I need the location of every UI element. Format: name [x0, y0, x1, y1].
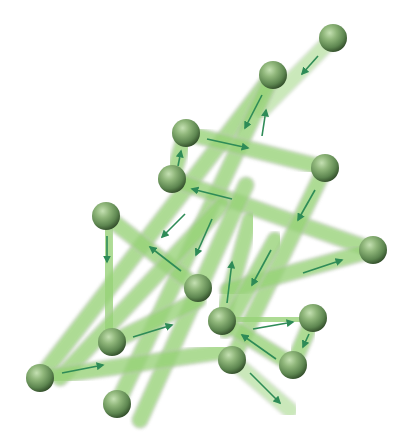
node-ball-n13	[279, 351, 307, 379]
node-ball-n12	[218, 346, 246, 374]
node-ball-n3	[172, 119, 200, 147]
node-ball-n5	[158, 165, 186, 193]
node-ball-n6	[92, 202, 120, 230]
node-ball-n2	[259, 61, 287, 89]
node-ball-n8	[184, 274, 212, 302]
node-ball-n14	[26, 364, 54, 392]
node-ball-n1	[319, 24, 347, 52]
node-ball-n15	[103, 390, 131, 418]
node-ball-n11	[98, 328, 126, 356]
node-ball-n10	[299, 304, 327, 332]
node-ball-n7	[359, 236, 387, 264]
node-ball-n9	[208, 307, 236, 335]
path-diagram	[0, 0, 409, 434]
rod-layer	[40, 38, 373, 420]
node-ball-n4	[311, 154, 339, 182]
